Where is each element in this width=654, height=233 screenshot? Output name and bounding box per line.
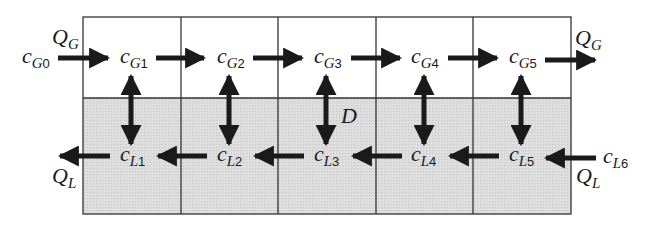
liquid-inlet-concentration: cL6 xyxy=(603,143,628,171)
liquid-flow-label-in: QL xyxy=(576,163,600,191)
exchange-label-d: D xyxy=(340,103,357,128)
gas-inlet-concentration: cG0 xyxy=(22,43,50,71)
stage-cascade-diagram: QG QG QL QL D cG0 cG1 cG2 cG3 cG4 cG5 cL… xyxy=(0,0,654,233)
gas-flow-label-out: QG xyxy=(575,25,602,53)
liquid-flow-label-out: QL xyxy=(52,163,76,191)
gas-flow-label-in: QG xyxy=(52,24,79,52)
